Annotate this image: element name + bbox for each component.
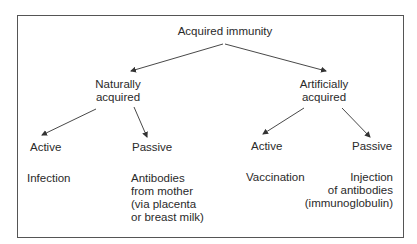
artificial-passive-label: Passive xyxy=(352,140,392,153)
natural-passive-example: Antibodies from mother (via placenta or … xyxy=(131,172,204,224)
arrow-natural-to-passive xyxy=(134,107,147,137)
natural-active-example: Infection xyxy=(27,172,70,185)
arrow-root-to-natural xyxy=(131,44,223,71)
artificial-label-line2: acquired xyxy=(293,91,355,104)
example-line: of antibodies xyxy=(300,184,393,197)
example-line: Infection xyxy=(27,172,70,185)
arrow-natural-to-active xyxy=(42,109,96,135)
artificial-active-label: Active xyxy=(251,140,282,153)
example-line: from mother xyxy=(131,185,204,198)
natural-active-label: Active xyxy=(30,141,61,154)
natural-passive-label: Passive xyxy=(132,141,172,154)
arrow-artificial-to-active xyxy=(263,108,304,134)
example-line: (immunoglobulin) xyxy=(300,197,393,210)
example-line: (via placenta xyxy=(131,198,204,211)
artificial-passive-example: Injection of antibodies (immunoglobulin) xyxy=(300,171,393,210)
root-node-label: Acquired immunity xyxy=(170,25,280,38)
example-line: Injection xyxy=(300,171,393,184)
artificial-label-line1: Artificially xyxy=(293,78,355,91)
arrow-artificial-to-passive xyxy=(342,108,370,137)
arrow-root-to-artificial xyxy=(225,44,326,71)
natural-label-line1: Naturally xyxy=(88,78,148,91)
example-line: or breast milk) xyxy=(131,211,204,224)
artificial-active-example: Vaccination xyxy=(246,171,305,184)
natural-node-label: Naturally acquired xyxy=(88,78,148,104)
example-line: Vaccination xyxy=(246,171,305,184)
natural-label-line2: acquired xyxy=(88,91,148,104)
artificial-node-label: Artificially acquired xyxy=(293,78,355,104)
example-line: Antibodies xyxy=(131,172,204,185)
